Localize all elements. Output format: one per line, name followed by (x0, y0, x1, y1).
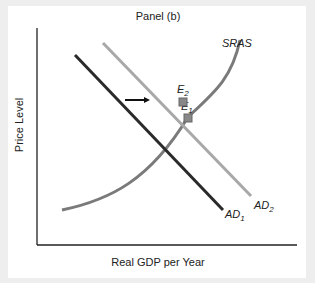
point-e2 (179, 98, 187, 106)
chart-svg: Panel (b) Real GDP per Year Price Level … (0, 0, 315, 283)
point-e1 (184, 114, 192, 122)
arrow-head-icon (144, 97, 150, 103)
ad1-line (75, 55, 223, 210)
ad2-line (103, 43, 251, 196)
ad2-label: AD2 (253, 199, 274, 214)
sras-curve (62, 40, 240, 210)
chart-title: Panel (b) (136, 10, 181, 22)
e2-label: E2 (177, 83, 189, 98)
x-axis-label: Real GDP per Year (111, 256, 205, 268)
y-axis-label: Price Level (13, 98, 25, 152)
ad1-label: AD1 (224, 208, 245, 223)
sras-label: SRAS (222, 37, 253, 49)
